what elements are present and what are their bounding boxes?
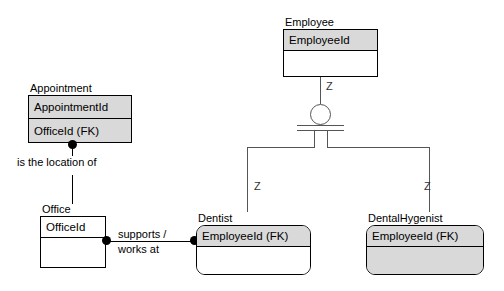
category-drop-right bbox=[327, 130, 328, 147]
entity-appointment-box: AppointmentId OfficeId (FK) bbox=[28, 95, 132, 143]
category-drop-left bbox=[314, 130, 315, 147]
entity-office-body bbox=[41, 238, 105, 267]
entity-dentist-body bbox=[197, 247, 310, 274]
relationship-label-supports-line2: works at bbox=[117, 243, 160, 256]
connector-employee-to-category bbox=[320, 77, 321, 104]
entity-dentist-box: EmployeeId (FK) bbox=[196, 225, 311, 275]
category-branch-left-vertical bbox=[247, 147, 248, 212]
category-symbol-line-lower bbox=[297, 130, 344, 131]
entity-employee-key-attribute: EmployeeId bbox=[284, 30, 377, 51]
entity-dental-hygenist[interactable]: DentalHygenist EmployeeId (FK) bbox=[366, 225, 484, 275]
relationship-label-is-the-location-of: is the location of bbox=[16, 156, 98, 169]
entity-office-key-attribute: OfficeId bbox=[41, 217, 105, 238]
entity-appointment-key-attribute: AppointmentId bbox=[29, 96, 131, 119]
relationship-label-supports-line1: supports / bbox=[117, 228, 167, 241]
entity-employee-label: Employee bbox=[285, 16, 334, 29]
er-diagram-canvas: Employee EmployeeId Z Z Z Appointment Ap… bbox=[0, 0, 504, 291]
entity-employee[interactable]: Employee EmployeeId bbox=[283, 29, 378, 77]
entity-dental-hygenist-label: DentalHygenist bbox=[368, 212, 443, 225]
entity-dental-hygenist-body bbox=[367, 247, 483, 274]
connector-office-to-dentist bbox=[106, 241, 196, 242]
cardinality-dental-hygenist: Z bbox=[424, 180, 431, 192]
category-symbol-line-upper bbox=[297, 125, 344, 126]
entity-office-box: OfficeId bbox=[40, 216, 106, 268]
entity-dentist-label: Dentist bbox=[198, 212, 232, 225]
entity-appointment[interactable]: Appointment AppointmentId OfficeId (FK) bbox=[28, 95, 132, 143]
entity-dental-hygenist-key-attribute: EmployeeId (FK) bbox=[367, 226, 483, 247]
category-branch-left-horizontal bbox=[247, 147, 315, 148]
entity-appointment-label: Appointment bbox=[30, 82, 92, 95]
cardinality-employee-category: Z bbox=[326, 80, 333, 92]
cardinality-dentist: Z bbox=[254, 180, 261, 192]
category-symbol-circle bbox=[310, 104, 331, 125]
entity-dental-hygenist-box: EmployeeId (FK) bbox=[366, 225, 484, 275]
category-branch-right-horizontal bbox=[327, 147, 429, 148]
entity-office[interactable]: Office OfficeId bbox=[40, 216, 106, 268]
entity-employee-body bbox=[284, 51, 377, 76]
entity-employee-box: EmployeeId bbox=[283, 29, 378, 77]
entity-dentist[interactable]: Dentist EmployeeId (FK) bbox=[196, 225, 311, 275]
entity-appointment-foreign-key: OfficeId (FK) bbox=[29, 119, 131, 142]
entity-dentist-key-attribute: EmployeeId (FK) bbox=[197, 226, 310, 247]
connector-appointment-to-office-lower bbox=[72, 175, 73, 204]
entity-office-label: Office bbox=[42, 203, 71, 216]
